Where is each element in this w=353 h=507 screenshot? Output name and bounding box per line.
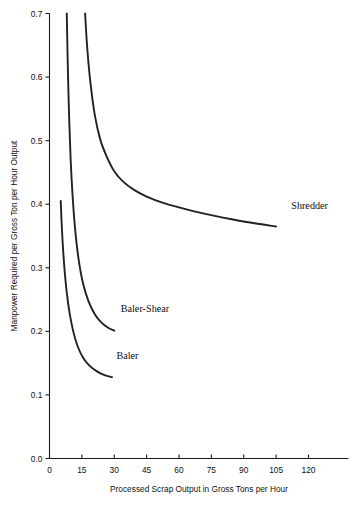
y-axis-tick-labels: 0.00.10.20.30.40.50.60.7 [31, 9, 43, 464]
y-tick-label: 0.5 [31, 136, 43, 146]
series-label-baler-shear: Baler-Shear [121, 303, 170, 314]
y-axis-ticks [46, 14, 50, 459]
x-tick-label: 90 [239, 465, 249, 475]
y-tick-label: 0.4 [31, 199, 43, 209]
x-tick-label: 60 [174, 465, 184, 475]
x-tick-label: 105 [269, 465, 283, 475]
series-annotations: ShredderBaler-ShearBaler [116, 200, 328, 361]
y-axis-title: Manpower Required per Gross Ton per Hour… [9, 140, 19, 331]
series-label-baler: Baler [116, 350, 139, 361]
x-tick-label: 45 [142, 465, 152, 475]
chart-figure: 0.00.10.20.30.40.50.60.7 015304560759010… [0, 0, 353, 507]
y-tick-label: 0.2 [31, 326, 43, 336]
curve-shredder [85, 14, 276, 227]
x-axis-ticks [82, 455, 309, 459]
data-curves [61, 14, 276, 378]
x-tick-label: 15 [77, 465, 87, 475]
curve-baler [61, 201, 112, 377]
x-tick-label: 30 [110, 465, 120, 475]
x-axis-title: Processed Scrap Output in Gross Tons per… [110, 484, 288, 494]
curve-baler-shear [67, 14, 114, 331]
y-tick-label: 0.3 [31, 263, 43, 273]
axis-lines [50, 14, 349, 459]
x-tick-label: 75 [207, 465, 217, 475]
x-tick-label: 0 [47, 465, 52, 475]
x-tick-label: 120 [302, 465, 316, 475]
y-tick-label: 0.6 [31, 72, 43, 82]
y-tick-label: 0.0 [31, 454, 43, 464]
y-tick-label: 0.1 [31, 390, 43, 400]
series-label-shredder: Shredder [291, 200, 328, 211]
x-axis-tick-labels: 0153045607590105120 [47, 465, 316, 475]
y-tick-label: 0.7 [31, 9, 43, 19]
chart-plot-area: 0.00.10.20.30.40.50.60.7 015304560759010… [0, 0, 353, 507]
